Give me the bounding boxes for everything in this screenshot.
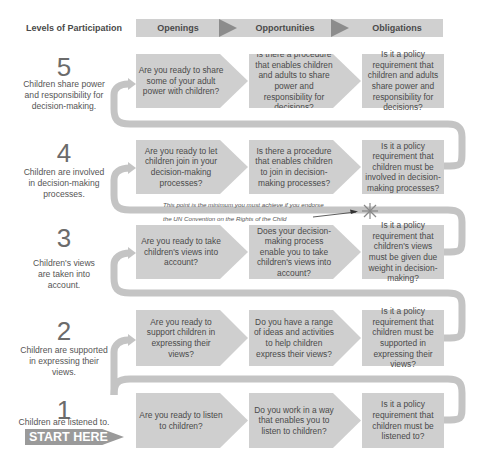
level-2-description: Children are supported in expressing the… bbox=[18, 345, 110, 378]
header-arrows bbox=[0, 0, 486, 40]
minimum-note-line2: the UN Convention on the Rights of the C… bbox=[163, 215, 286, 222]
level-1-obligations: Is it a policy requirement that children… bbox=[362, 393, 444, 448]
level-5-description: Children share power and responsibility … bbox=[18, 79, 110, 112]
stage-opportunities: Opportunities bbox=[240, 23, 330, 33]
level-5-number: 5 bbox=[14, 54, 114, 80]
chevron-right-icon bbox=[331, 19, 349, 37]
level-3-description: Children's views are taken into account. bbox=[26, 258, 102, 291]
level-2-number: 2 bbox=[14, 318, 114, 344]
level-2-obligations: Is it a policy requirement that children… bbox=[362, 310, 444, 366]
stage-openings: Openings bbox=[140, 23, 216, 33]
chevron-right-icon bbox=[219, 19, 237, 37]
level-4-obligations: Is it a policy requirement that children… bbox=[362, 140, 444, 194]
level-3-obligations: Is it a policy requirement that children… bbox=[362, 225, 444, 279]
level-4-number: 4 bbox=[14, 140, 114, 166]
minimum-note-line1: This point is the minimum you must achie… bbox=[163, 201, 324, 208]
stage-obligations: Obligations bbox=[352, 23, 442, 33]
level-5-obligations: Is it a policy requirement that children… bbox=[362, 54, 444, 108]
star-icon bbox=[362, 203, 378, 219]
level-1-description: Children are listened to. bbox=[18, 417, 110, 428]
level-4-description: Children are involved in decision-making… bbox=[22, 167, 106, 200]
level-3-number: 3 bbox=[14, 225, 114, 251]
